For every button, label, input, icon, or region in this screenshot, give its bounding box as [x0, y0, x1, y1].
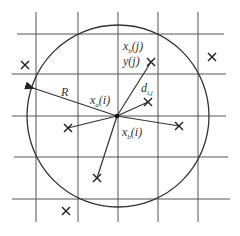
- label-d-ij: di,j: [141, 81, 153, 97]
- vector-left: [68, 116, 117, 128]
- label-xb-j: xb(j): [122, 39, 143, 55]
- vector-down: [97, 116, 117, 178]
- vectors: [33, 62, 179, 178]
- center-point: [115, 114, 120, 119]
- marker-1: [21, 61, 29, 69]
- marker-4: [144, 98, 152, 106]
- label-y-j: y(j): [122, 54, 140, 68]
- neighborhood-diagram: R xa(i) xb(j) y(j) di,j xb(i): [0, 0, 240, 236]
- label-xa-i: xa(i): [89, 93, 110, 109]
- marker-8: [62, 207, 70, 215]
- label-r: R: [60, 85, 69, 99]
- label-xb-i: xb(i): [121, 125, 142, 141]
- marker-3: [147, 58, 155, 66]
- marker-5: [64, 124, 72, 132]
- marker-2: [208, 53, 216, 61]
- marker-7: [93, 174, 101, 182]
